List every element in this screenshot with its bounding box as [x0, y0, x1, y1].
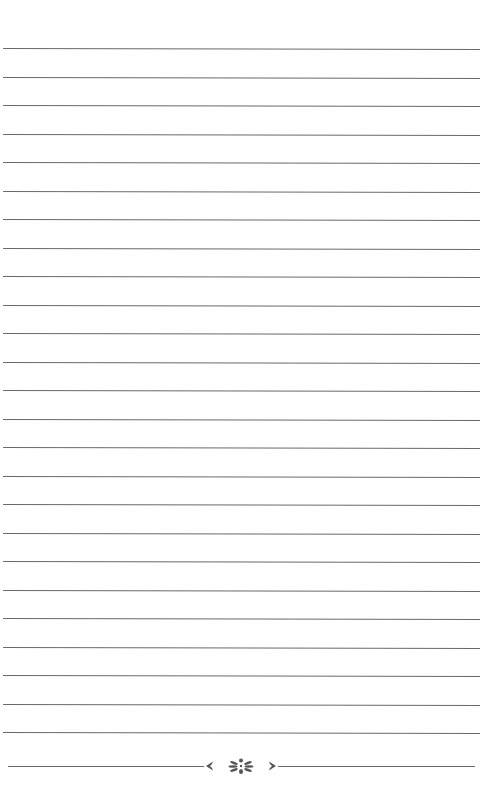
- ruled-line: [3, 77, 480, 79]
- ruled-line: [3, 362, 480, 364]
- divider-line-right: [278, 766, 475, 767]
- ruled-line: [3, 732, 480, 734]
- ruled-line: [3, 447, 480, 449]
- ruled-line: [3, 533, 480, 535]
- ruled-line: [3, 647, 480, 649]
- ruled-line: [3, 48, 480, 50]
- ruled-line: [3, 219, 480, 221]
- ruled-line: [3, 162, 480, 164]
- floral-divider-icon: [204, 758, 278, 774]
- ruled-line: [3, 191, 480, 193]
- ruled-line: [3, 476, 480, 478]
- footer-divider: [8, 758, 475, 774]
- ruled-line: [3, 504, 480, 506]
- ruled-line: [3, 419, 480, 421]
- ruled-line: [3, 561, 480, 563]
- divider-line-left: [8, 766, 204, 767]
- ruled-line: [3, 134, 480, 136]
- ruled-line: [3, 105, 480, 107]
- ruled-line: [3, 704, 480, 706]
- notebook-page: [0, 0, 497, 791]
- ruled-line: [3, 276, 480, 278]
- ruled-line: [3, 333, 480, 335]
- ruled-line: [3, 590, 480, 592]
- ruled-line: [3, 390, 480, 392]
- ruled-line: [3, 248, 480, 250]
- ruled-line: [3, 618, 480, 620]
- ruled-line: [3, 675, 480, 677]
- ruled-line: [3, 305, 480, 307]
